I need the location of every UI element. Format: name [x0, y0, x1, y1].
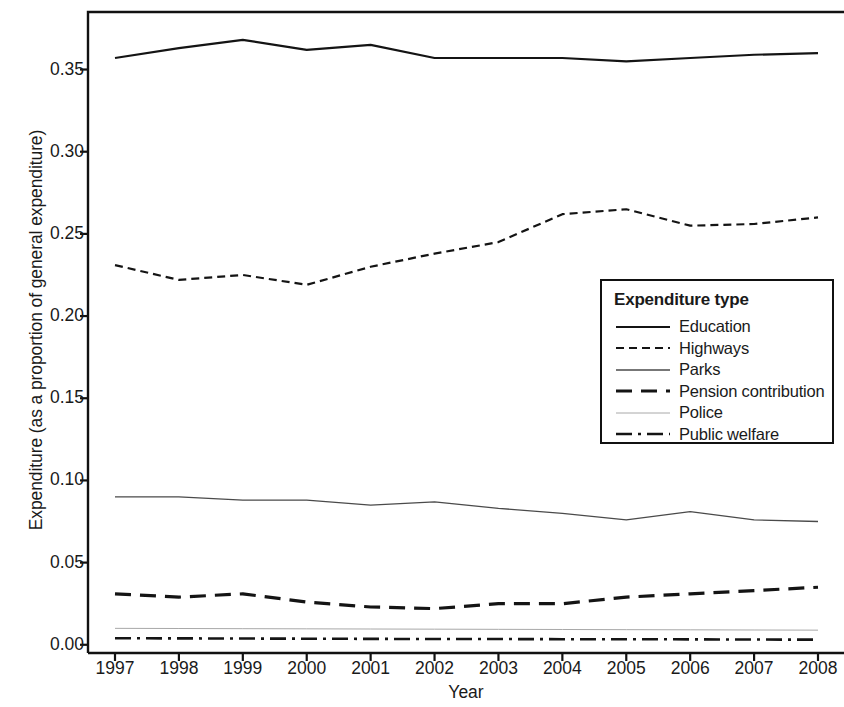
x-axis-title: Year: [88, 682, 844, 703]
legend: Expenditure type EducationHighwaysParksP…: [600, 279, 834, 444]
series-line-education: [115, 40, 818, 61]
legend-title: Expenditure type: [614, 290, 822, 310]
y-axis-tick-labels: 0.000.050.100.150.200.250.300.35: [22, 0, 84, 707]
legend-item-label: Highways: [679, 339, 749, 358]
series-line-public-welfare: [115, 638, 818, 639]
series-line-police: [115, 628, 818, 630]
x-tick-label: 1999: [223, 658, 262, 679]
x-tick-label: 2006: [671, 658, 710, 679]
legend-item-label: Education: [679, 317, 751, 336]
legend-item[interactable]: Highways: [614, 338, 822, 360]
y-tick-label: 0.35: [22, 61, 84, 79]
x-tick-label: 1998: [159, 658, 198, 679]
line-chart-figure: Expenditure (as a proportion of general …: [0, 0, 844, 707]
legend-item-label: Parks: [679, 360, 720, 379]
legend-line-swatch: [614, 427, 672, 441]
legend-line-swatch: [614, 341, 672, 355]
series-line-parks: [115, 497, 818, 522]
x-tick-label: 2004: [543, 658, 582, 679]
legend-item[interactable]: Education: [614, 316, 822, 338]
y-tick-label: 0.15: [22, 389, 84, 407]
legend-item[interactable]: Parks: [614, 359, 822, 381]
legend-line-swatch: [614, 320, 672, 334]
x-tick-label: 2002: [415, 658, 454, 679]
y-tick-label: 0.30: [22, 143, 84, 161]
series-line-highways: [115, 209, 818, 285]
x-tick-label: 2007: [735, 658, 774, 679]
x-tick-label: 2000: [287, 658, 326, 679]
x-tick-label: 2001: [351, 658, 390, 679]
y-tick-label: 0.10: [22, 472, 84, 490]
legend-line-swatch: [614, 406, 672, 420]
legend-line-swatch: [614, 384, 672, 398]
legend-item[interactable]: Police: [614, 402, 822, 424]
legend-line-swatch: [614, 363, 672, 377]
y-tick-label: 0.00: [22, 636, 84, 654]
y-tick-label: 0.20: [22, 307, 84, 325]
legend-item-label: Public welfare: [679, 425, 779, 444]
y-tick-label: 0.25: [22, 225, 84, 243]
x-tick-label: 2005: [607, 658, 646, 679]
x-tick-label: 1997: [96, 658, 135, 679]
x-tick-label: 2008: [799, 658, 838, 679]
legend-item[interactable]: Public welfare: [614, 424, 822, 446]
x-tick-label: 2003: [479, 658, 518, 679]
series-line-pension-contribution: [115, 587, 818, 608]
legend-item[interactable]: Pension contribution: [614, 381, 822, 403]
legend-item-label: Pension contribution: [679, 382, 825, 401]
legend-item-label: Police: [679, 403, 723, 422]
y-tick-label: 0.05: [22, 554, 84, 572]
